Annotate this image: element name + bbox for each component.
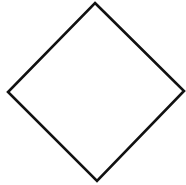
diagram-canvas — [0, 0, 186, 185]
